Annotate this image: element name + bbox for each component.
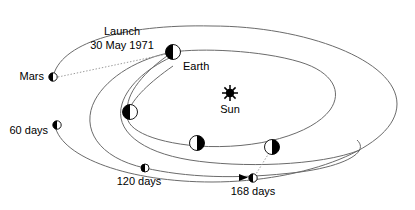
transfer-trajectory-inner-branch xyxy=(121,55,360,165)
day168-label: 168 days xyxy=(231,185,276,197)
day120-label: 120 days xyxy=(117,175,162,187)
marker-earth-at-launch xyxy=(166,45,181,60)
mars-label: Mars xyxy=(20,70,45,82)
sun-label: Sun xyxy=(220,103,240,115)
diagram-canvas: Launch 30 May 1971 Mars Earth Sun 60 day… xyxy=(0,0,415,210)
launch-date-label: 30 May 1971 xyxy=(90,39,154,51)
arrival-sight-line xyxy=(256,153,269,174)
orbital-diagram: Launch 30 May 1971 Mars Earth Sun 60 day… xyxy=(0,0,415,210)
launch-title-label: Launch xyxy=(104,25,140,37)
marker-mars-168-days xyxy=(265,140,280,155)
marker-spacecraft-120-days xyxy=(141,164,149,172)
sun-icon xyxy=(222,85,238,101)
marker-mars-60-days xyxy=(53,121,61,129)
earth-orbit-path xyxy=(127,50,335,146)
marker-earth-168-days xyxy=(190,136,205,151)
marker-spacecraft-168-days xyxy=(249,174,257,182)
earth-label: Earth xyxy=(183,60,209,72)
marker-earth-60-days xyxy=(123,105,138,120)
marker-mars-at-launch xyxy=(49,73,57,81)
day60-label: 60 days xyxy=(9,124,48,136)
